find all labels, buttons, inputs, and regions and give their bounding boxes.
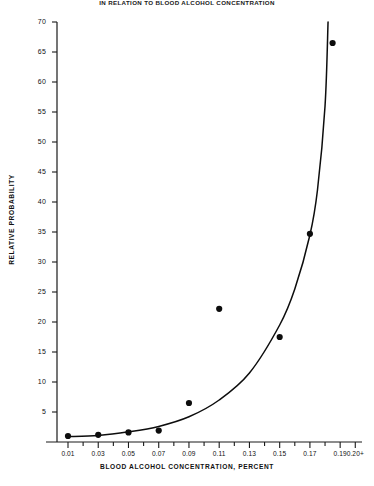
x-axis-tick-label: 0.03 bbox=[81, 450, 115, 457]
y-axis-tick-label: 65 bbox=[24, 48, 46, 55]
y-axis-tick-label: 50 bbox=[24, 138, 46, 145]
data-point bbox=[216, 306, 222, 312]
data-point bbox=[65, 433, 71, 439]
chart-figure: IN RELATION TO BLOOD ALCOHOL CONCENTRATI… bbox=[0, 0, 374, 486]
x-axis-tick-label: 0.07 bbox=[142, 450, 176, 457]
data-point bbox=[277, 334, 283, 340]
data-point bbox=[330, 40, 336, 46]
x-axis-tick-label: 0.20+ bbox=[338, 450, 372, 457]
y-axis-tick-label: 45 bbox=[24, 168, 46, 175]
y-axis-tick-label: 30 bbox=[24, 258, 46, 265]
plot-area bbox=[0, 0, 374, 486]
y-axis-tick-label: 35 bbox=[24, 228, 46, 235]
data-point bbox=[307, 231, 313, 237]
y-axis-title: RELATIVE PROBABILITY bbox=[8, 165, 15, 275]
data-point bbox=[186, 400, 192, 406]
y-axis-tick-label: 25 bbox=[24, 288, 46, 295]
y-axis-tick-label: 10 bbox=[24, 378, 46, 385]
data-points bbox=[65, 40, 336, 439]
y-axis-ticks bbox=[52, 22, 57, 412]
y-axis-tick-label: 60 bbox=[24, 78, 46, 85]
x-axis-tick-label: 0.17 bbox=[293, 450, 327, 457]
data-point bbox=[156, 428, 162, 434]
x-axis-ticks bbox=[68, 442, 355, 448]
x-axis-tick-label: 0.01 bbox=[51, 450, 85, 457]
y-axis-tick-label: 40 bbox=[24, 198, 46, 205]
y-axis-tick-label: 15 bbox=[24, 348, 46, 355]
fitted-curve-path bbox=[68, 22, 328, 437]
data-point bbox=[125, 429, 131, 435]
x-axis-tick-label: 0.11 bbox=[202, 450, 236, 457]
axes bbox=[46, 22, 362, 442]
x-axis-tick-label: 0.13 bbox=[232, 450, 266, 457]
x-axis-tick-label: 0.15 bbox=[263, 450, 297, 457]
y-axis-tick-label: 5 bbox=[24, 408, 46, 415]
x-axis-title: BLOOD ALCOHOL CONCENTRATION, PERCENT bbox=[0, 463, 374, 470]
y-axis-tick-label: 70 bbox=[24, 18, 46, 25]
data-point bbox=[95, 432, 101, 438]
x-axis-tick-label: 0.09 bbox=[172, 450, 206, 457]
y-axis-tick-label: 20 bbox=[24, 318, 46, 325]
x-axis-tick-label: 0.05 bbox=[111, 450, 145, 457]
y-axis-tick-label: 55 bbox=[24, 108, 46, 115]
fitted-curve bbox=[68, 22, 328, 437]
